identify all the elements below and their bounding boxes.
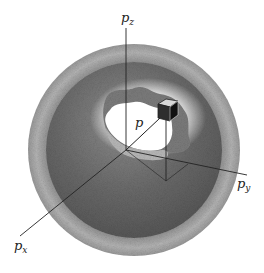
pz-label: pz <box>121 10 134 27</box>
p-vector-label: p <box>135 115 144 130</box>
py-label: py <box>237 176 251 193</box>
momentum-sphere-diagram: pz py px p <box>0 0 264 273</box>
px-label: px <box>14 238 27 255</box>
